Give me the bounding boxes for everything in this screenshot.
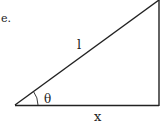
base-label: x <box>94 109 102 123</box>
right-triangle-diagram: e. l θ x <box>0 0 163 123</box>
angle-label: θ <box>44 92 51 106</box>
fragment-text: e. <box>1 12 11 25</box>
hypotenuse-label: l <box>77 37 81 52</box>
hypotenuse-line <box>15 0 159 105</box>
angle-arc <box>34 92 39 106</box>
